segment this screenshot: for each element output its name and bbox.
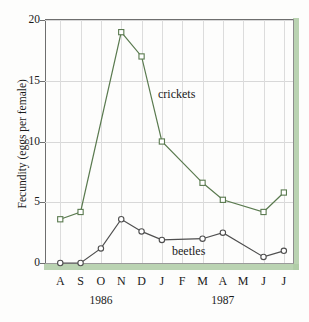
data-point-crickets	[200, 180, 205, 185]
data-point-beetles	[78, 260, 83, 265]
data-point-crickets	[261, 209, 266, 214]
data-point-beetles	[200, 236, 205, 241]
data-point-beetles	[159, 237, 164, 242]
fecundity-line-chart: 05101520 ASONDJFMAMJJ 19861987 Fecundity…	[0, 0, 309, 322]
data-point-beetles	[261, 254, 266, 259]
data-point-crickets	[119, 30, 124, 35]
data-point-beetles	[220, 230, 225, 235]
series-layer	[0, 0, 309, 322]
data-point-beetles	[139, 229, 144, 234]
data-point-crickets	[78, 209, 83, 214]
data-point-crickets	[281, 190, 286, 195]
data-point-crickets	[58, 217, 63, 222]
series-annotation-crickets: crickets	[158, 88, 195, 100]
data-point-beetles	[119, 217, 124, 222]
series-annotation-beetles: beetles	[172, 245, 205, 257]
data-point-crickets	[159, 139, 164, 144]
data-point-crickets	[139, 54, 144, 59]
data-point-crickets	[220, 197, 225, 202]
series-line-crickets	[60, 32, 284, 219]
data-point-beetles	[281, 248, 286, 253]
data-point-beetles	[58, 260, 63, 265]
data-point-beetles	[98, 246, 103, 251]
